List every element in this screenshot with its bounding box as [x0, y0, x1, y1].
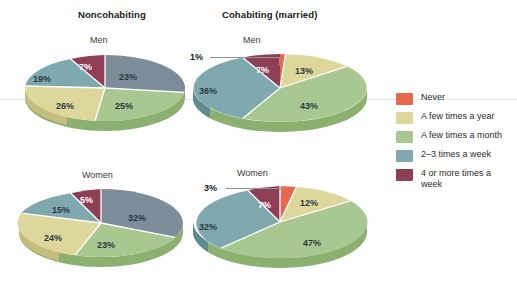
legend-swatch-four-plus-week-icon	[396, 169, 413, 181]
legend-swatch-two-three-week-icon	[396, 150, 413, 162]
pie-noncohabiting-men: 23% 25% 26% 19% 7%	[20, 48, 190, 130]
legend-label-few-times-year: A few times a year	[421, 111, 495, 122]
pie-noncohabiting-women: 32% 23% 24% 15% 5%	[14, 183, 189, 268]
pie-noncohabiting-men-svg	[20, 48, 190, 130]
pie-noncohabiting-women-svg	[14, 183, 189, 268]
legend-item-few-times-year[interactable]: A few times a year	[396, 111, 514, 124]
subtitle-cohabiting-women: Women	[237, 168, 268, 178]
pie-cohabiting-men: 1% 13% 43% 36% 7%	[188, 48, 373, 133]
column-header-noncohabiting: Noncohabiting	[78, 9, 146, 20]
legend-item-four-plus-week[interactable]: 4 or more times a week	[396, 168, 514, 190]
legend-item-two-three-week[interactable]: 2–3 times a week	[396, 149, 514, 162]
slice-26	[25, 86, 105, 121]
pie-cohabiting-women: 3% 12% 47% 32% 7%	[188, 180, 373, 272]
leader-line-3pct-vertical	[281, 188, 282, 197]
subtitle-cohabiting-men: Men	[243, 35, 261, 45]
subtitle-noncohabiting-women: Women	[82, 170, 113, 180]
pie-cohabiting-men-svg	[188, 48, 373, 133]
leader-line-3pct-horizontal	[226, 188, 282, 189]
leader-line-1pct-vertical	[279, 57, 280, 65]
legend-swatch-few-times-year-icon	[396, 112, 413, 124]
pie-chart-figure: Noncohabiting Cohabiting (married) Men M…	[0, 0, 517, 284]
legend-swatch-never-icon	[396, 93, 413, 105]
legend-item-few-times-month[interactable]: A few times a month	[396, 130, 514, 143]
leader-line-1pct-horizontal	[210, 57, 280, 58]
legend-swatch-few-times-month-icon	[396, 131, 413, 143]
legend: Never A few times a year A few times a m…	[396, 92, 514, 196]
legend-label-few-times-month: A few times a month	[421, 130, 502, 141]
subtitle-noncohabiting-men: Men	[90, 35, 108, 45]
column-header-cohabiting: Cohabiting (married)	[222, 9, 317, 20]
legend-label-four-plus-week: 4 or more times a week	[421, 168, 511, 190]
legend-item-never[interactable]: Never	[396, 92, 514, 105]
legend-label-two-three-week: 2–3 times a week	[421, 149, 491, 160]
legend-label-never: Never	[421, 92, 445, 103]
slice-23	[105, 55, 185, 92]
